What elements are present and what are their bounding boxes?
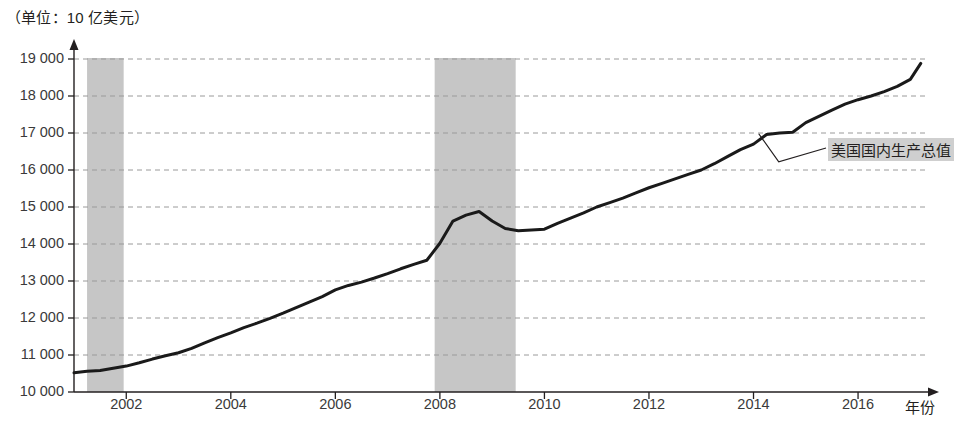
y-tick-label-17000: 17 000 (2, 124, 64, 140)
x-tick-label-2014: 2014 (724, 396, 784, 412)
chart-canvas (0, 0, 965, 427)
x-tick-label-2004: 2004 (201, 396, 261, 412)
gdp-line-chart: （单位：10 亿美元） 10 00011 00012 00013 00014 0… (0, 0, 965, 427)
y-tick-label-14000: 14 000 (2, 235, 64, 251)
y-tick-label-15000: 15 000 (2, 198, 64, 214)
recession-band-1 (87, 58, 124, 392)
y-tick-label-12000: 12 000 (2, 309, 64, 325)
y-tick-label-18000: 18 000 (2, 87, 64, 103)
y-axis-arrow (70, 39, 79, 50)
y-tick-label-10000: 10 000 (2, 383, 64, 399)
x-tick-label-2010: 2010 (514, 396, 574, 412)
y-tick-label-16000: 16 000 (2, 161, 64, 177)
y-tick-label-11000: 11 000 (2, 346, 64, 362)
x-tick-label-2012: 2012 (619, 396, 679, 412)
series-annotation-label: 美国国内生产总值 (828, 138, 954, 161)
series-annotation-leader-line (759, 134, 826, 162)
recession-band-2 (435, 58, 516, 392)
x-tick-label-2006: 2006 (305, 396, 365, 412)
x-tick-label-2002: 2002 (96, 396, 156, 412)
y-tick-label-19000: 19 000 (2, 50, 64, 66)
x-tick-label-2016: 2016 (828, 396, 888, 412)
y-tick-label-13000: 13 000 (2, 272, 64, 288)
x-axis-title: 年份 (905, 396, 935, 417)
x-tick-label-2008: 2008 (410, 396, 470, 412)
